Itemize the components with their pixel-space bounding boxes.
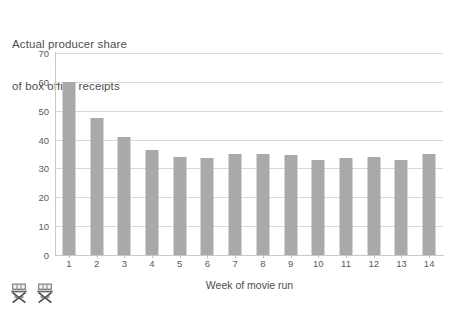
bar-slot <box>166 53 194 255</box>
bar <box>118 137 131 255</box>
chart-title-line-1: Actual producer share <box>12 37 127 51</box>
directors-chair-icon <box>9 282 29 304</box>
bar-slot <box>388 53 416 255</box>
bar-slot <box>83 53 111 255</box>
bar-slot <box>221 53 249 255</box>
bar-slot <box>55 53 83 255</box>
x-axis-title: Week of movie run <box>0 279 461 291</box>
bar-slot <box>360 53 388 255</box>
x-axis-tick-label: 3 <box>122 258 127 269</box>
x-axis-tick-label: 1 <box>66 258 71 269</box>
x-axis-tick-label: 11 <box>341 258 351 269</box>
bar <box>423 154 436 255</box>
y-axis-tick-label: 40 <box>38 134 49 145</box>
bar-slot <box>110 53 138 255</box>
x-axis-tick-label: 12 <box>368 258 379 269</box>
x-axis-tick-labels: 1234567891011121314 <box>55 258 443 272</box>
x-axis-tick-label: 13 <box>396 258 407 269</box>
y-axis-tick-label: 30 <box>38 163 49 174</box>
x-axis-tick-label: 8 <box>260 258 265 269</box>
bar <box>90 118 103 255</box>
y-axis-tick-label: 20 <box>38 192 49 203</box>
x-axis-tick-label: 4 <box>149 258 154 269</box>
bar <box>145 150 158 255</box>
x-axis-tick-label: 14 <box>424 258 435 269</box>
x-axis-tick-label: 9 <box>288 258 293 269</box>
bar-slot <box>249 53 277 255</box>
bar <box>173 157 186 255</box>
bar <box>229 154 242 255</box>
bar-series <box>55 53 443 255</box>
directors-chair-icon <box>35 282 55 304</box>
bar <box>367 157 380 255</box>
y-axis-tick-label: 10 <box>38 221 49 232</box>
bar <box>256 154 269 255</box>
y-axis-tick-label: 0 <box>44 250 49 261</box>
y-axis-tick-label: 50 <box>38 105 49 116</box>
bar-slot <box>138 53 166 255</box>
bar-slot <box>415 53 443 255</box>
x-axis-tick-label: 10 <box>313 258 324 269</box>
bar <box>284 155 297 255</box>
y-axis-tick-label: 60 <box>38 76 49 87</box>
x-axis-line <box>55 255 444 256</box>
decorative-icons <box>9 280 57 304</box>
bar-slot <box>332 53 360 255</box>
bar <box>62 82 75 255</box>
y-axis-tick-labels: 010203040506070 <box>20 53 49 255</box>
bar-slot <box>194 53 222 255</box>
x-axis-tick-label: 6 <box>205 258 210 269</box>
bar <box>201 158 214 255</box>
bar <box>395 160 408 255</box>
bar-slot <box>277 53 305 255</box>
x-axis-tick-label: 2 <box>94 258 99 269</box>
bar-chart-figure: Actual producer share of box office rece… <box>0 0 461 316</box>
bar-slot <box>304 53 332 255</box>
bar <box>339 158 352 255</box>
x-axis-tick-label: 5 <box>177 258 182 269</box>
x-axis-tick-label: 7 <box>232 258 237 269</box>
y-axis-tick-label: 70 <box>38 48 49 59</box>
bar <box>312 160 325 255</box>
